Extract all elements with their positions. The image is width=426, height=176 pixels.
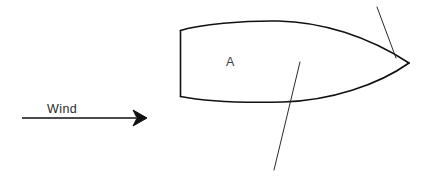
- hull-zone-label: A: [226, 55, 235, 69]
- diagram-canvas: Wind A: [0, 0, 426, 176]
- wind-direction-arrow: Wind: [22, 102, 147, 126]
- wind-label: Wind: [47, 102, 77, 116]
- centerboard-line: [274, 62, 300, 170]
- hull-upper-sheer: [181, 21, 410, 63]
- boat-hull: [181, 21, 410, 102]
- sailboat-wind-diagram: Wind A: [0, 0, 426, 176]
